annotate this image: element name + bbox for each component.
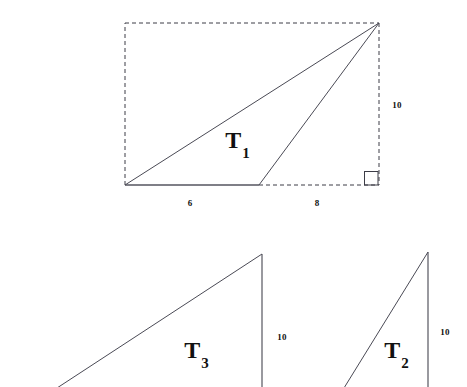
triangle-label-t2: T2	[384, 338, 408, 367]
geometry-diagram-svg	[0, 0, 467, 387]
t1-short-side	[259, 23, 379, 185]
triangle-label-t1: T1	[225, 128, 249, 157]
triangle-label-t2-subscript: 2	[401, 354, 409, 370]
measure-label-height-t2-10: 10	[440, 328, 449, 337]
bottom-left-figure-group	[57, 254, 262, 387]
triangle-label-t3: T3	[184, 338, 208, 367]
triangle-label-t3-subscript: 3	[201, 354, 209, 370]
bottom-right-figure-group	[344, 252, 428, 387]
right-angle-square-icon	[365, 172, 379, 186]
t3-hypotenuse	[57, 254, 262, 387]
geometry-figure-canvas: T1 6 8 10 T3 10 T2 10	[0, 0, 467, 387]
measure-label-base-right-8: 8	[315, 199, 320, 208]
measure-label-height-t3-10: 10	[277, 333, 286, 342]
t1-long-hypotenuse	[125, 23, 379, 185]
measure-label-base-left-6: 6	[188, 199, 193, 208]
t2-hypotenuse	[344, 252, 428, 387]
measure-label-height-top-10: 10	[392, 101, 401, 110]
triangle-label-t1-subscript: 1	[242, 144, 250, 160]
triangle-label-t1-letter: T	[225, 127, 241, 153]
triangle-label-t3-letter: T	[184, 337, 200, 363]
triangle-label-t2-letter: T	[384, 337, 400, 363]
top-figure-group	[125, 23, 379, 185]
